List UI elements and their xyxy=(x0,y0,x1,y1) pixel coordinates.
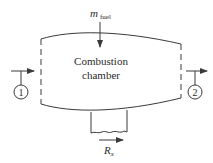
station-2-label: 2 xyxy=(193,87,198,98)
chamber-top-wall xyxy=(41,33,181,44)
support-strut xyxy=(91,110,127,133)
fuel-mass-flow-label: mfuel xyxy=(90,7,111,21)
station-1-label: 1 xyxy=(19,87,24,98)
chamber-label: Combustion xyxy=(74,55,128,67)
reaction-force-label: Rx xyxy=(103,144,115,158)
chamber-label-line2: chamber xyxy=(82,69,120,81)
combustion-chamber-diagram: mfuel Combustion chamber 1 2 Rx xyxy=(0,0,213,163)
chamber-bottom-wall xyxy=(41,98,181,110)
